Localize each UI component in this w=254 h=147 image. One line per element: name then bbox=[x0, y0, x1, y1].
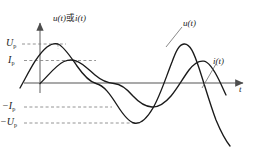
y-axis-label-or: 或 bbox=[66, 13, 75, 23]
y-tick-label-ip: Ip bbox=[8, 55, 15, 66]
y-tick-ip-sub: p bbox=[11, 59, 14, 66]
y-tick-label-neg-ip: −Ip bbox=[2, 101, 15, 112]
waveform-plot-svg bbox=[0, 0, 254, 147]
curve-label-i: i(t) bbox=[213, 57, 224, 66]
curve-label-u: u(t) bbox=[183, 19, 196, 28]
y-tick-label-up: Up bbox=[6, 38, 16, 49]
y-tick-neg-ip-sub: p bbox=[12, 105, 15, 112]
y-axis-label: u(t)或i(t) bbox=[53, 14, 86, 23]
y-tick-neg-up-sub: p bbox=[14, 121, 17, 128]
waveform-figure: u(t)或i(t) Up Ip −Ip −Up u(t) i(t) t bbox=[0, 0, 254, 147]
y-tick-neg-ip-base: −I bbox=[2, 100, 12, 111]
y-axis-label-i: i(t) bbox=[75, 13, 86, 23]
y-tick-up-sub: p bbox=[13, 42, 16, 49]
y-axis-label-u: u(t) bbox=[53, 13, 66, 23]
axes-group bbox=[24, 23, 243, 93]
leader-line-u bbox=[166, 27, 182, 47]
leader-line-i bbox=[202, 64, 216, 88]
curve-u-of-t bbox=[20, 43, 230, 146]
x-axis-label: t bbox=[239, 85, 242, 94]
y-tick-label-neg-up: −Up bbox=[0, 117, 17, 128]
y-tick-neg-up-base: −U bbox=[0, 116, 14, 127]
